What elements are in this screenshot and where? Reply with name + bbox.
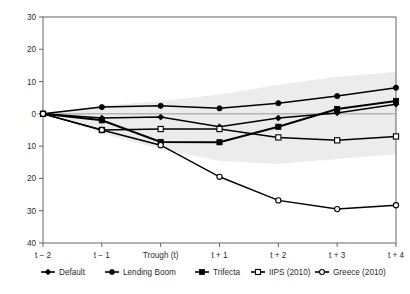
data-point-circle-filled (110, 270, 115, 275)
legend-label: Greece (2010) (333, 268, 386, 277)
data-point-square-open (393, 134, 398, 139)
chart-figure: 302010010203040 t − 2t − 1Trough (t)t + … (0, 0, 410, 294)
data-point-circle-open (393, 203, 398, 208)
data-point-square-filled (217, 140, 222, 145)
legend-label: Default (59, 268, 86, 277)
data-point-circle-open (217, 174, 222, 179)
data-point-square-filled (200, 270, 205, 275)
data-point-square-filled (335, 106, 340, 111)
y-tick-label: 10 (27, 142, 37, 151)
data-point-square-open (276, 135, 281, 140)
data-point-circle-filled (217, 106, 222, 111)
data-point-circle-open (158, 143, 163, 148)
legend-label: IIPS (2010) (269, 268, 311, 277)
legend-label: Trifecta (213, 268, 240, 277)
data-point-square-filled (99, 118, 104, 123)
x-tick-label: t + 1 (211, 251, 228, 260)
y-tick-label: 40 (27, 239, 37, 248)
y-tick-label: 0 (31, 110, 36, 119)
y-tick-label: 10 (27, 78, 37, 87)
x-tick-label: t − 2 (35, 251, 52, 260)
legend-item-default[interactable]: Default (41, 268, 86, 277)
data-point-circle-open (335, 207, 340, 212)
x-tick-label: t + 2 (270, 251, 287, 260)
y-tick-label: 20 (27, 174, 37, 183)
data-point-circle-filled (158, 103, 163, 108)
legend-item-trifecta[interactable]: Trifecta (195, 268, 240, 277)
data-point-circle-open (99, 127, 104, 132)
x-axis: t − 2t − 1Trough (t)t + 1t + 2t + 3t + 4 (35, 243, 405, 260)
data-point-circle-filled (99, 104, 104, 109)
data-point-circle-open (276, 198, 281, 203)
data-point-square-filled (276, 124, 281, 129)
y-tick-label: 30 (27, 207, 37, 216)
data-point-square-open (335, 138, 340, 143)
chart-legend: DefaultLending BoomTrifectaIIPS (2010)Gr… (41, 268, 386, 277)
legend-item-lending-boom[interactable]: Lending Boom (105, 268, 176, 277)
x-tick-label: t + 4 (388, 251, 405, 260)
data-point-square-open (217, 126, 222, 131)
y-axis: 302010010203040 (27, 13, 43, 248)
x-tick-label: t − 1 (94, 251, 111, 260)
data-point-circle-filled (335, 94, 340, 99)
x-tick-label: t + 3 (329, 251, 346, 260)
data-point-square-open (158, 126, 163, 131)
line-chart: 302010010203040 t − 2t − 1Trough (t)t + … (0, 0, 410, 294)
data-point-circle-filled (276, 101, 281, 106)
data-point-circle-open (320, 270, 325, 275)
y-tick-label: 30 (27, 13, 37, 22)
data-point-circle-filled (393, 85, 398, 90)
legend-item-iips-2010[interactable]: IIPS (2010) (251, 268, 311, 277)
x-tick-label: Trough (t) (143, 251, 179, 260)
legend-label: Lending Boom (123, 268, 176, 277)
legend-item-greece-2010[interactable]: Greece (2010) (315, 268, 386, 277)
data-point-diamond-filled (45, 269, 51, 275)
data-point-square-filled (393, 98, 398, 103)
y-tick-label: 20 (27, 45, 37, 54)
data-point-circle-open (40, 111, 45, 116)
data-point-square-open (256, 270, 261, 275)
